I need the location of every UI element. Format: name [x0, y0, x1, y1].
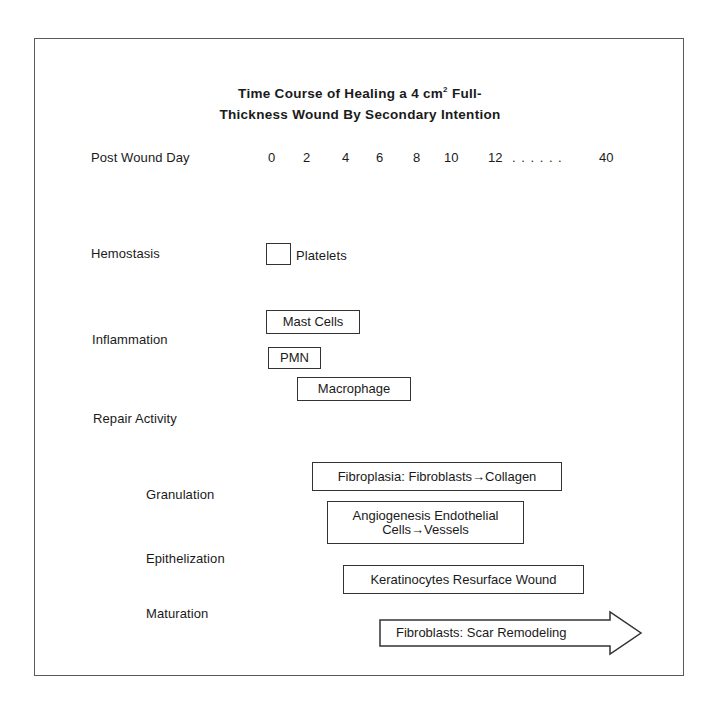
phase-inflammation: Inflammation: [92, 332, 168, 347]
tick-8: 8: [413, 150, 420, 165]
tick-6: 6: [376, 150, 383, 165]
tick-10: 10: [444, 150, 458, 165]
macrophage-bar: Macrophage: [297, 377, 411, 401]
phase-repair-activity: Repair Activity: [93, 411, 177, 426]
tick-40: 40: [599, 150, 613, 165]
tick-ellipsis: . . . . . .: [512, 150, 563, 165]
angiogenesis-line-2: Cells→Vessels: [382, 523, 469, 537]
title-line-1: Time Course of Healing a 4 cm2 Full-: [150, 79, 570, 104]
tick-12: 12: [488, 150, 502, 165]
phase-hemostasis: Hemostasis: [91, 246, 160, 261]
tick-0: 0: [268, 150, 275, 165]
phase-granulation: Granulation: [146, 487, 214, 502]
fibroplasia-bar: Fibroplasia: Fibroblasts→Collagen: [312, 462, 562, 491]
mast-cells-bar: Mast Cells: [266, 310, 360, 334]
pmn-bar: PMN: [268, 347, 321, 369]
scar-remodeling-label: Fibroblasts: Scar Remodeling: [396, 625, 567, 640]
tick-2: 2: [303, 150, 310, 165]
phase-maturation: Maturation: [146, 606, 208, 621]
platelets-label: Platelets: [296, 248, 347, 263]
angiogenesis-bar: Angiogenesis Endothelial Cells→Vessels: [327, 501, 524, 544]
axis-label: Post Wound Day: [91, 150, 190, 165]
title-line-2: Thickness Wound By Secondary Intention: [150, 104, 570, 125]
platelets-bar: [266, 243, 291, 265]
figure-title: Time Course of Healing a 4 cm2 Full- Thi…: [150, 79, 570, 125]
tick-4: 4: [342, 150, 349, 165]
phase-epithelization: Epithelization: [146, 551, 225, 566]
angiogenesis-line-1: Angiogenesis Endothelial: [353, 509, 499, 523]
keratinocytes-bar: Keratinocytes Resurface Wound: [343, 565, 584, 594]
